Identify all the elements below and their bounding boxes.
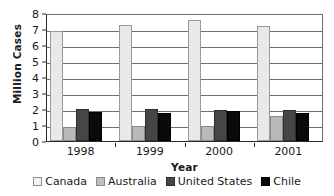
x-axis-tick-labels: 1998199920002001 — [46, 146, 323, 157]
bar-unitedstates-2000[interactable] — [214, 110, 227, 141]
legend-label: Canada — [45, 176, 87, 187]
bar-chart-figure: Million Cases 012345678 1998199920002001… — [0, 0, 334, 196]
bar-group-1998 — [47, 15, 116, 141]
bar-group-1999 — [116, 15, 185, 141]
y-axis-tick-labels: 012345678 — [0, 0, 46, 143]
x-axis-title: Year — [46, 161, 323, 173]
legend-swatch-australia — [96, 177, 105, 186]
legend-label: Chile — [273, 176, 301, 187]
y-tick-label: 3 — [32, 89, 39, 100]
bar-groups — [47, 15, 322, 141]
bar-australia-1999[interactable] — [132, 126, 145, 141]
bar-chile-1998[interactable] — [89, 112, 102, 141]
x-tick-label-1999: 1999 — [115, 146, 184, 157]
y-tick-label: 2 — [32, 105, 39, 116]
y-tick-label: 6 — [32, 41, 39, 52]
plot-area — [46, 14, 323, 142]
x-tick-label-1998: 1998 — [46, 146, 115, 157]
x-tick-mark — [185, 143, 186, 147]
bar-australia-2000[interactable] — [201, 126, 214, 141]
legend-swatch-canada — [33, 177, 42, 186]
x-tick-label-2001: 2001 — [254, 146, 323, 157]
bar-unitedstates-1999[interactable] — [145, 109, 158, 141]
y-tick-label: 1 — [32, 121, 39, 132]
y-tick-label: 4 — [32, 73, 39, 84]
bar-chile-1999[interactable] — [158, 113, 171, 141]
bar-canada-2001[interactable] — [257, 26, 270, 141]
bar-unitedstates-2001[interactable] — [283, 110, 296, 141]
x-tick-mark — [115, 143, 116, 147]
bar-group-2000 — [185, 15, 254, 141]
y-tick-label: 0 — [32, 137, 39, 148]
legend-swatch-unitedstates — [166, 177, 175, 186]
bar-australia-1998[interactable] — [63, 127, 76, 141]
bar-group-2001 — [253, 15, 322, 141]
chart-legend: CanadaAustraliaUnited StatesChile — [0, 176, 334, 187]
y-tick-label: 8 — [32, 9, 39, 20]
legend-item-canada[interactable]: Canada — [33, 176, 87, 187]
bar-chile-2000[interactable] — [227, 111, 240, 141]
legend-swatch-chile — [261, 177, 270, 186]
y-tick-label: 5 — [32, 57, 39, 68]
bar-canada-1999[interactable] — [119, 25, 132, 141]
bar-canada-1998[interactable] — [50, 31, 63, 141]
legend-label: United States — [178, 176, 253, 187]
legend-label: Australia — [108, 176, 157, 187]
bar-unitedstates-1998[interactable] — [76, 109, 89, 141]
bar-chile-2001[interactable] — [296, 113, 309, 141]
legend-item-australia[interactable]: Australia — [96, 176, 157, 187]
y-tick-label: 7 — [32, 25, 39, 36]
legend-item-chile[interactable]: Chile — [261, 176, 301, 187]
x-tick-mark — [254, 143, 255, 147]
x-tick-label-2000: 2000 — [185, 146, 254, 157]
bar-australia-2001[interactable] — [270, 116, 283, 141]
bar-canada-2000[interactable] — [188, 20, 201, 141]
legend-item-unitedstates[interactable]: United States — [166, 176, 253, 187]
